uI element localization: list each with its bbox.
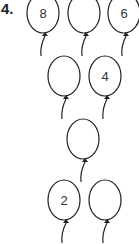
balloon[interactable] (89, 180, 121, 243)
balloon: 6 (108, 0, 139, 56)
balloon-string (103, 99, 107, 119)
balloon[interactable] (48, 56, 80, 119)
balloon-body (68, 0, 100, 33)
balloon-string (122, 36, 126, 56)
balloon-string (81, 162, 85, 182)
balloon-string (62, 223, 66, 243)
balloon-number: 2 (60, 193, 67, 208)
balloon: 2 (48, 180, 80, 243)
balloon[interactable] (67, 119, 99, 182)
balloon-string (62, 99, 66, 119)
balloon-number: 8 (39, 6, 46, 21)
balloon-body (48, 56, 80, 96)
balloon-body (67, 119, 99, 159)
balloon-string (103, 223, 107, 243)
balloon: 4 (89, 56, 121, 119)
balloon[interactable] (68, 0, 100, 56)
balloon: 8 (27, 0, 59, 56)
balloon-number: 4 (101, 69, 108, 84)
balloon-pyramid: 8642 (0, 0, 139, 244)
balloon-number: 6 (120, 6, 127, 21)
balloon-body (89, 180, 121, 220)
balloon-string (41, 36, 45, 56)
balloon-string (82, 36, 86, 56)
